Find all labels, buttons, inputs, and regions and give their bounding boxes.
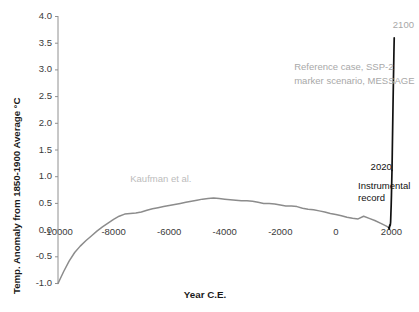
series-line-kaufman (58, 198, 389, 283)
annotation-year-2100: 2100 (393, 19, 414, 30)
annotation-year-2020: 2020 (371, 161, 392, 172)
annotation-reference-case-line2: marker scenario, MESSAGE (294, 75, 414, 86)
annotation-instrumental-line2: record (358, 192, 385, 203)
series-line-ssp2-projection (392, 38, 394, 170)
x-axis-title: Year C.E. (145, 289, 265, 301)
annotation-reference-case-line1: Reference case, SSP-2 (294, 61, 393, 72)
annotation-instrumental-line1: Instrumental (358, 180, 410, 191)
annotation-kaufman: Kaufman et al. (130, 173, 191, 184)
series-line-instrumental (389, 170, 392, 229)
